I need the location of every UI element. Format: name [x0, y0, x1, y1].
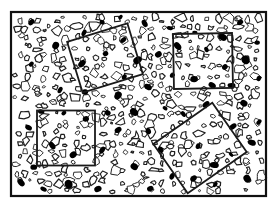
clast-shape: [93, 55, 99, 61]
clast-shape: [238, 116, 245, 120]
clast-shape: [189, 40, 192, 43]
clast-shape: [256, 180, 262, 184]
clast-shape: [160, 161, 163, 167]
clast-shape: [77, 126, 80, 128]
clast-shape: [58, 123, 62, 127]
clast-shape: [95, 64, 100, 69]
clast-shape: [127, 185, 135, 195]
clast-shape: [256, 151, 259, 154]
clast-shape: [19, 111, 30, 118]
clast-shape: [188, 152, 192, 157]
clast-shape: [160, 189, 164, 193]
clast-shape: [86, 103, 89, 107]
clast-shape: [184, 140, 192, 148]
clast-shape: [75, 131, 80, 135]
clast-shape: [63, 144, 67, 147]
clast-shape: [182, 76, 185, 80]
clast-shape: [203, 160, 210, 169]
clast-shape: [138, 36, 141, 38]
clast-shape: [140, 120, 144, 123]
clast-shape: [120, 100, 125, 105]
clast-shape: [248, 46, 252, 49]
clast-shape: [217, 64, 222, 66]
clast-shape: [18, 142, 24, 146]
clast-shape: [119, 142, 123, 145]
clast-shape: [141, 51, 148, 60]
clast-shape: [199, 105, 202, 107]
clast-shape: [102, 57, 107, 61]
clast-shape: [65, 188, 70, 191]
clast-shape: [254, 58, 257, 61]
clast-shape: [75, 58, 79, 60]
clast-shape: [152, 71, 157, 77]
clast-shape: [84, 76, 89, 82]
clast-shape: [42, 86, 45, 88]
clast-shape: [190, 15, 193, 21]
clast-shape: [29, 179, 31, 181]
clast-shape: [144, 162, 148, 165]
clast-shape: [227, 170, 236, 174]
clast-shape: [165, 87, 169, 92]
clast-shape: [18, 154, 21, 158]
clast-shape: [111, 122, 113, 124]
clast-shape: [47, 189, 51, 193]
clast-shape: [255, 49, 259, 52]
clast-shape: [113, 36, 116, 41]
clast-shape: [110, 190, 115, 194]
clast-shape: [120, 169, 125, 173]
clast-shape: [132, 143, 135, 146]
clast-shape: [99, 132, 107, 136]
clast-shape: [169, 140, 174, 144]
clast-shape: [47, 24, 50, 28]
texture-figure-svg: [0, 0, 279, 209]
clast-shape: [13, 95, 17, 98]
clast-shape: [23, 149, 28, 154]
clast-shape: [176, 53, 182, 57]
clast-shape: [24, 55, 29, 61]
clast-shape: [82, 135, 85, 138]
clast-shape: [170, 151, 174, 156]
clast-shape: [218, 135, 221, 138]
clast-shape: [195, 24, 200, 30]
clast-shape: [220, 92, 227, 96]
clast-shape: [61, 16, 65, 18]
clast-shape: [141, 172, 145, 177]
clast-shape: [199, 159, 202, 164]
clast-shape: [55, 20, 60, 23]
clast-shape: [199, 169, 201, 172]
clast-shape: [191, 160, 196, 165]
clast-shape: [45, 172, 52, 176]
clast-shape: [198, 190, 201, 192]
clast-shape: [26, 132, 34, 137]
clast-shape: [143, 97, 148, 100]
clast-shape: [176, 162, 182, 167]
clast-shape: [159, 21, 163, 23]
clast-shape: [83, 181, 90, 187]
clast-shape: [220, 83, 225, 87]
clast-shape: [225, 74, 229, 77]
clast-shape: [244, 189, 248, 192]
clast-shape: [213, 139, 220, 144]
clast-shape: [205, 17, 209, 20]
clast-shape: [133, 64, 137, 68]
clast-shape: [215, 75, 220, 79]
clast-shape: [18, 18, 22, 24]
clast-shape: [92, 113, 100, 122]
clast-shape: [131, 151, 134, 153]
clast-shape: [43, 29, 46, 31]
clast-shape: [187, 24, 192, 29]
figure-root: [0, 0, 279, 209]
clast-shape: [160, 100, 164, 104]
clast-shape: [41, 37, 47, 41]
clast-shape: [60, 134, 65, 139]
clast-shape: [258, 140, 262, 145]
clast-shape: [70, 93, 80, 101]
clast-shape: [245, 85, 250, 90]
clast-shape: [148, 150, 151, 155]
clast-shape: [173, 181, 176, 186]
clast-shape: [111, 107, 115, 110]
clast-shape: [238, 123, 241, 126]
clast-shape: [181, 131, 187, 139]
clast-shape: [122, 85, 126, 89]
clast-shape: [87, 47, 90, 51]
